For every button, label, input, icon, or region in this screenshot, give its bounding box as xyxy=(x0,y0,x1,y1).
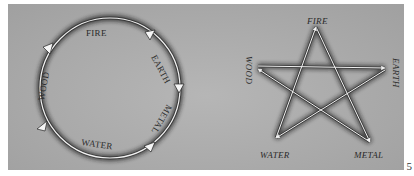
star-label-metal: METAL xyxy=(353,150,383,160)
star-label-wood: WOOD xyxy=(244,56,254,84)
star-label-water: WATER xyxy=(260,150,290,160)
circle-label-water: WATER xyxy=(81,137,114,151)
five-elements-diagram: FIRE EARTH METAL WATER WOOD F xyxy=(0,0,414,176)
circle-label-earth: EARTH xyxy=(149,53,172,85)
circle-arrow-water-to-wood xyxy=(37,121,47,131)
star-label-fire: FIRE xyxy=(306,16,328,26)
star-line-earth-to-water xyxy=(276,70,385,138)
star-label-earth: EARTH xyxy=(391,57,401,88)
generating-cycle: FIRE EARTH METAL WATER WOOD xyxy=(36,18,184,158)
circle-label-fire: FIRE xyxy=(86,28,107,38)
page-number: 5 xyxy=(407,160,413,172)
controlling-cycle: FIRE EARTH METAL WATER WOOD xyxy=(244,16,401,160)
